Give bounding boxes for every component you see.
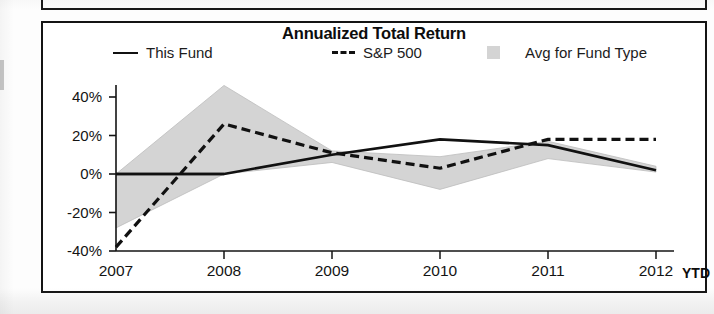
chart-svg (43, 23, 705, 291)
x-axis-tick-label: 2011 (508, 262, 588, 280)
plot-area: 40%20%0%-20%-40%200720082009201020112012… (43, 23, 705, 291)
y-axis-tick-label: 40% (44, 88, 102, 105)
x-axis-tick-label: 2008 (184, 262, 264, 280)
scan-edge-artifact (0, 60, 4, 90)
x-axis-tick-label: 2010 (400, 262, 480, 280)
y-axis-tick-label: 0% (44, 165, 102, 182)
x-axis-tick-label: 2009 (292, 262, 372, 280)
x-axis-ytd-label: YTD (682, 265, 710, 281)
cropped-panel-above (41, 0, 707, 10)
y-axis-tick-label: -20% (44, 204, 102, 221)
y-axis-tick-label: 20% (44, 127, 102, 144)
x-axis-tick-label: 2007 (76, 262, 156, 280)
annualized-total-return-chart-panel: Annualized Total Return This Fund S&P 50… (41, 21, 707, 293)
avg-for-fund-type-band (116, 85, 656, 227)
y-axis-tick-label: -40% (44, 242, 102, 259)
